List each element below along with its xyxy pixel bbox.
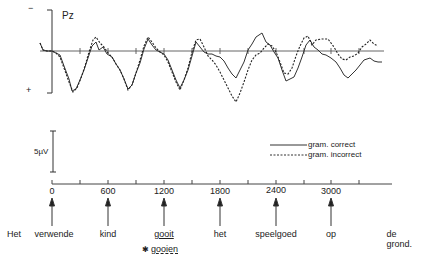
word-het-2: het xyxy=(214,229,227,239)
polarity-negative-label: − xyxy=(28,3,33,13)
word-het-1: Het xyxy=(7,229,21,239)
x-tick-3000: 3000 xyxy=(321,186,341,196)
series-incorrect xyxy=(40,36,378,102)
time-axis xyxy=(52,180,392,184)
channel-label: Pz xyxy=(62,10,74,21)
onset-arrows xyxy=(50,198,334,226)
ungrammatical-asterisk-icon: ✱ xyxy=(142,245,149,254)
word-gooien: gooien xyxy=(151,244,178,254)
legend-correct-label: gram. correct xyxy=(308,140,355,149)
scale-bar xyxy=(50,131,56,172)
word-op: op xyxy=(326,229,336,239)
scale-bar-label: 5µV xyxy=(34,147,48,156)
word-verwende: verwende xyxy=(34,229,73,239)
word-kind: kind xyxy=(100,229,117,239)
word-speelgoed: speelgoed xyxy=(255,229,297,239)
baseline xyxy=(40,48,384,54)
series-correct xyxy=(40,33,382,91)
x-tick-0: 0 xyxy=(49,186,54,196)
word-de-grond: de grond. xyxy=(387,229,418,249)
erp-plot xyxy=(0,0,433,261)
x-tick-1200: 1200 xyxy=(154,186,174,196)
word-gooit: gooit xyxy=(154,229,174,239)
polarity-positive-label: + xyxy=(26,85,31,95)
x-tick-1800: 1800 xyxy=(210,186,230,196)
x-tick-600: 600 xyxy=(100,186,115,196)
legend-incorrect-label: gram. incorrect xyxy=(308,150,361,159)
x-tick-2400: 2400 xyxy=(266,185,286,195)
